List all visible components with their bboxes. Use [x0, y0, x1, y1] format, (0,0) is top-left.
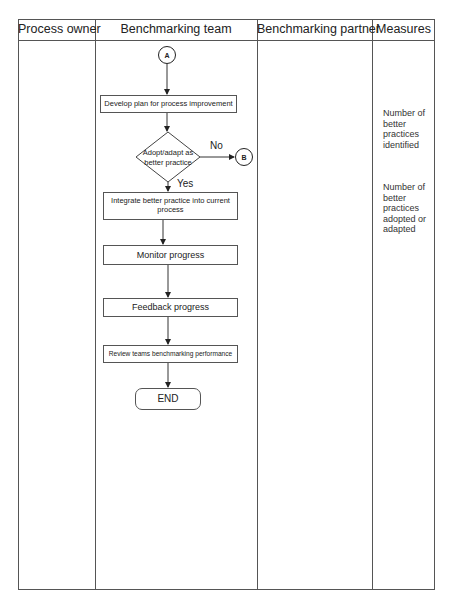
step-develop-plan: Develop plan for process improvement	[100, 95, 237, 113]
decision-line-2: better practice	[136, 158, 200, 168]
step-integrate: Integrate better practice into current p…	[103, 192, 238, 220]
yes-label: Yes	[177, 178, 193, 189]
decision-line-1: Adopt/adapt as	[136, 148, 200, 158]
step-review-performance: Review teams benchmarking performance	[103, 345, 238, 363]
measure-practices-adopted: Number of better practices adopted or ad…	[383, 182, 435, 235]
step-feedback-progress: Feedback progress	[103, 298, 238, 317]
decision-text: Adopt/adapt as better practice	[136, 148, 200, 168]
connector-a: A	[158, 46, 176, 64]
measure-practices-identified: Number of better practices identified	[383, 108, 435, 150]
end-terminator: END	[135, 388, 201, 410]
connector-b: B	[235, 148, 253, 166]
step-monitor-progress: Monitor progress	[103, 245, 238, 265]
no-label: No	[210, 140, 223, 151]
